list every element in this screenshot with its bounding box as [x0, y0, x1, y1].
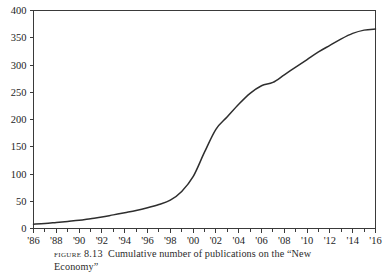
- x-tick-label: '14: [346, 235, 359, 246]
- data-series-group: [34, 29, 376, 224]
- x-tick-label: '08: [278, 235, 290, 246]
- x-tick-label: '88: [50, 235, 62, 246]
- y-tick-label: 150: [11, 141, 27, 152]
- x-tick-label: '16: [369, 235, 381, 246]
- x-tick-label: '98: [164, 235, 176, 246]
- x-tick-label: '96: [141, 235, 153, 246]
- y-tick-label: 300: [11, 60, 27, 71]
- x-axis-tick-labels: '86'88'90'92'94'96'98'00'02'04'06'08'10'…: [27, 235, 381, 246]
- x-tick-label: '90: [73, 235, 85, 246]
- y-tick-label: 200: [11, 114, 27, 125]
- y-tick-label: 250: [11, 87, 27, 98]
- caption-number: 8.13: [84, 248, 103, 259]
- x-tick-label: '10: [301, 235, 313, 246]
- y-tick-label: 100: [11, 169, 27, 180]
- x-axis-ticks: [34, 229, 376, 234]
- caption-text-1: Cumulative number of publications on the…: [108, 248, 311, 259]
- chart-plot-area: 050100150200250300350400 '86'88'90'92'94…: [0, 0, 385, 246]
- line-chart: 050100150200250300350400 '86'88'90'92'94…: [0, 0, 385, 246]
- caption-text-2: Economy”: [54, 261, 98, 272]
- figure-container: 050100150200250300350400 '86'88'90'92'94…: [0, 0, 385, 274]
- y-tick-label: 350: [11, 32, 27, 43]
- x-tick-label: '02: [210, 235, 222, 246]
- y-axis-tick-labels: 050100150200250300350400: [11, 5, 27, 234]
- x-tick-label: '04: [232, 235, 245, 246]
- figure-caption: Figure 8.13 Cumulative number of publica…: [0, 248, 385, 274]
- series-line: [34, 29, 376, 224]
- y-tick-label: 400: [11, 5, 27, 16]
- y-tick-label: 0: [21, 223, 26, 234]
- caption-line-2: Economy”: [0, 261, 385, 274]
- x-tick-label: '86: [27, 235, 39, 246]
- axis-frame: [34, 11, 376, 229]
- x-tick-label: '12: [324, 235, 336, 246]
- x-tick-label: '92: [96, 235, 108, 246]
- y-axis-ticks: [30, 11, 34, 229]
- y-tick-label: 50: [16, 196, 27, 207]
- x-tick-label: '94: [118, 235, 131, 246]
- x-tick-label: '00: [187, 235, 199, 246]
- caption-tag: Figure: [54, 248, 81, 259]
- caption-line-1: Figure 8.13 Cumulative number of publica…: [0, 248, 385, 261]
- x-tick-label: '06: [255, 235, 267, 246]
